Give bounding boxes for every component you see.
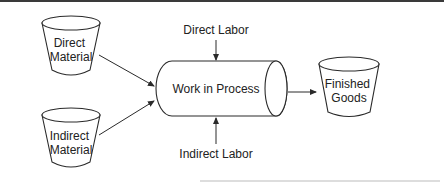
direct-material-label: Direct Material bbox=[50, 36, 93, 64]
indirect-material-node: Indirect Material bbox=[42, 108, 100, 167]
indirect-material-label-line1: Indirect bbox=[50, 129, 90, 143]
indirect-material-label-line2: Material bbox=[50, 143, 93, 157]
finished-goods-label: Finished Goods bbox=[325, 77, 374, 105]
direct-material-arrow bbox=[99, 55, 154, 86]
direct-material-node: Direct Material bbox=[42, 16, 100, 75]
finished-goods-label-line1: Finished bbox=[325, 77, 370, 91]
work-in-process-node: Work in Process bbox=[156, 61, 287, 116]
finished-goods-bucket-rim bbox=[319, 57, 379, 71]
indirect-material-label: Indirect Material bbox=[50, 129, 93, 157]
cost-flow-diagram: Direct Material Indirect Material Work i… bbox=[0, 0, 444, 182]
work-in-process-label: Work in Process bbox=[172, 82, 259, 96]
indirect-labor-label: Indirect Labor bbox=[179, 147, 252, 161]
indirect-material-arrow bbox=[99, 101, 154, 135]
top-border bbox=[0, 0, 444, 2]
wip-cylinder-end bbox=[265, 61, 287, 116]
finished-goods-node: Finished Goods bbox=[319, 57, 379, 117]
direct-material-bucket-rim bbox=[42, 16, 100, 30]
direct-material-label-line2: Material bbox=[50, 50, 93, 64]
direct-material-label-line1: Direct bbox=[54, 36, 86, 50]
indirect-material-bucket-rim bbox=[42, 108, 100, 122]
direct-labor-label: Direct Labor bbox=[183, 23, 248, 37]
finished-goods-label-line2: Goods bbox=[331, 91, 366, 105]
